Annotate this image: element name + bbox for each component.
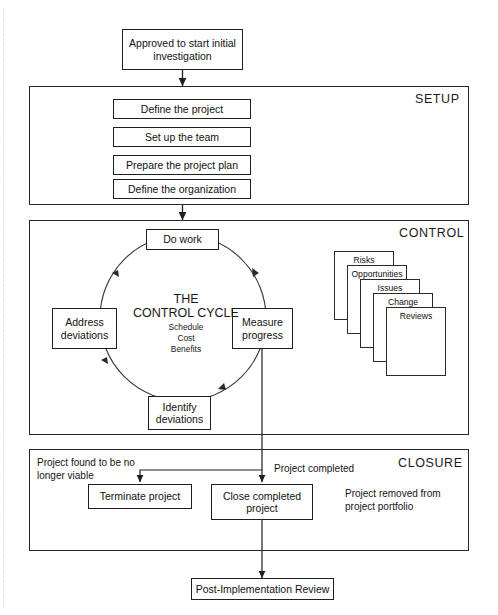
control-cycle-measure-schedule: Schedule <box>131 322 241 333</box>
control-node-label: Address deviations <box>53 316 116 341</box>
closure-note-project-removed: Project removed from project portfolio <box>345 488 465 513</box>
section-control-label: CONTROL <box>399 226 464 240</box>
closure-node-label: Terminate project <box>100 490 181 503</box>
setup-step-define-the-project[interactable]: Define the project <box>113 99 251 119</box>
setup-step-label: Prepare the project plan <box>126 159 238 172</box>
closure-node-label: Close completed project <box>212 490 312 515</box>
setup-step-prepare-the-project-plan[interactable]: Prepare the project plan <box>113 155 251 175</box>
control-cycle-title-line1: THE <box>131 292 241 307</box>
control-log-card-label: Change <box>388 297 418 307</box>
control-node-do-work[interactable]: Do work <box>146 229 219 250</box>
control-cycle-measure-benefits: Benefits <box>131 344 241 355</box>
control-log-card-label: Issues <box>378 283 403 293</box>
control-node-identify-deviations[interactable]: Identify deviations <box>148 396 211 430</box>
control-cycle-measure-cost: Cost <box>131 333 241 344</box>
setup-step-label: Set up the team <box>145 131 219 144</box>
control-log-card-reviews[interactable]: Reviews <box>386 307 446 376</box>
exit-node-label: Post-Implementation Review <box>196 583 330 596</box>
setup-step-label: Define the organization <box>128 183 236 196</box>
control-cycle-title-line2: CONTROL CYCLE <box>125 306 247 321</box>
page-edge-artifact <box>3 8 4 608</box>
control-log-card-label: Reviews <box>400 311 432 321</box>
setup-step-label: Define the project <box>141 103 223 116</box>
flowchart-canvas: Approved to start initial investigation … <box>0 0 498 615</box>
section-closure-label: CLOSURE <box>398 456 463 470</box>
control-node-label: Do work <box>163 233 202 246</box>
closure-node-terminate-project[interactable]: Terminate project <box>88 484 192 509</box>
closure-node-close-completed-project[interactable]: Close completed project <box>211 484 313 520</box>
control-log-card-label: Risks <box>353 255 374 265</box>
setup-step-define-the-organization[interactable]: Define the organization <box>113 179 251 199</box>
entry-node-label: Approved to start initial investigation <box>123 37 242 62</box>
control-node-label: Identify deviations <box>149 401 210 426</box>
control-log-card-label: Opportunities <box>351 269 402 279</box>
closure-label-project-completed: Project completed <box>274 463 394 476</box>
section-setup-label: SETUP <box>415 92 460 106</box>
control-node-address-deviations[interactable]: Address deviations <box>52 308 117 349</box>
entry-node[interactable]: Approved to start initial investigation <box>122 29 243 70</box>
setup-step-set-up-the-team[interactable]: Set up the team <box>113 127 251 147</box>
exit-node[interactable]: Post-Implementation Review <box>191 578 334 600</box>
closure-label-terminate-reason: Project found to be no longer viable <box>37 457 147 482</box>
